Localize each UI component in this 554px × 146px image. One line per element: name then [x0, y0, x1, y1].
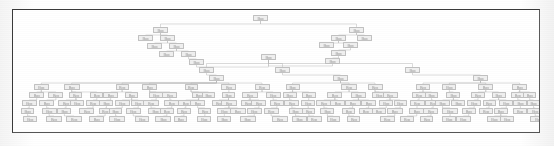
tree-node[interactable]: Box [512, 84, 527, 90]
tree-node[interactable]: Box [90, 92, 103, 98]
tree-node[interactable]: Box [202, 92, 215, 98]
tree-node[interactable]: Box [325, 58, 340, 64]
tree-node[interactable]: Box [319, 42, 334, 48]
tree-node[interactable]: Box [70, 100, 84, 106]
tree-node[interactable]: Box [135, 116, 149, 122]
tree-node[interactable]: Box [272, 116, 288, 122]
tree-node[interactable]: Box [368, 84, 383, 90]
tree-node[interactable]: Box [302, 108, 315, 114]
tree-node[interactable]: Box [169, 43, 184, 49]
tree-node[interactable]: Box [69, 92, 82, 98]
tree-node[interactable]: Box [29, 92, 44, 98]
tree-node[interactable]: Box [221, 84, 236, 90]
tree-node[interactable]: Box [247, 108, 262, 114]
tree-node[interactable]: Box [412, 92, 426, 98]
tree-node[interactable]: Box [34, 84, 49, 90]
tree-node[interactable]: Box [222, 92, 235, 98]
tree-node[interactable]: Box [181, 51, 196, 57]
tree-node[interactable]: Box [286, 84, 300, 90]
tree-node[interactable]: Box [270, 100, 284, 106]
tree-node[interactable]: Box [109, 116, 125, 122]
tree-node[interactable]: Box [320, 108, 334, 114]
tree-node[interactable]: Box [143, 100, 159, 106]
tree-node[interactable]: Box [405, 67, 420, 73]
tree-node[interactable]: Box [155, 116, 171, 122]
tree-node[interactable]: Box [115, 100, 130, 106]
tree-node[interactable]: Box [478, 84, 493, 90]
tree-node[interactable]: Box [48, 92, 63, 98]
tree-node[interactable]: Box [160, 35, 175, 41]
tree-node[interactable]: Box [400, 116, 414, 122]
tree-node[interactable]: Box [66, 116, 82, 122]
tree-node[interactable]: Box [126, 108, 141, 114]
tree-node[interactable]: Box [527, 100, 541, 106]
tree-node[interactable]: Box [435, 100, 450, 106]
tree-node[interactable]: Box [347, 116, 360, 122]
tree-node[interactable]: Box [409, 108, 424, 114]
tree-node[interactable]: Box [357, 35, 372, 41]
tree-node[interactable]: Box [359, 108, 373, 114]
tree-node[interactable]: Box [307, 116, 322, 122]
tree-node[interactable]: Box [343, 42, 358, 48]
tree-node[interactable]: Box [446, 92, 460, 98]
tree-node[interactable]: Box [138, 35, 153, 41]
tree-node[interactable]: Box [442, 116, 456, 122]
tree-node[interactable]: Box [264, 108, 279, 114]
tree-node[interactable]: Box [387, 108, 403, 114]
tree-node[interactable]: Box [523, 92, 536, 98]
tree-node[interactable]: Box [86, 100, 100, 106]
tree-node[interactable]: Box [327, 92, 342, 98]
tree-node[interactable]: Box [162, 92, 177, 98]
tree-node[interactable]: Box [462, 108, 476, 114]
tree-node[interactable]: Box [473, 75, 488, 81]
tree-node[interactable]: Box [46, 116, 62, 122]
tree-node[interactable]: Box [125, 92, 138, 98]
tree-node[interactable]: Box [149, 92, 163, 98]
tree-node[interactable]: Box [240, 116, 256, 122]
tree-node[interactable]: Box [372, 108, 386, 114]
tree-node[interactable]: Box [159, 51, 174, 57]
tree-node[interactable]: Box [471, 92, 485, 98]
tree-node[interactable]: Box [185, 84, 198, 90]
tree-node[interactable]: Box [513, 100, 527, 106]
tree-node[interactable]: Box [99, 100, 113, 106]
tree-node[interactable]: Box [420, 116, 433, 122]
tree-node[interactable]: Box [330, 100, 345, 106]
tree-node[interactable]: Box [442, 84, 456, 90]
tree-node[interactable]: Box [255, 84, 270, 90]
tree-node[interactable]: Box [242, 92, 258, 98]
tree-node[interactable]: Box [109, 108, 122, 114]
tree-node[interactable]: Box [410, 100, 425, 106]
tree-node[interactable]: Box [331, 50, 346, 56]
tree-node[interactable]: Box [333, 75, 348, 81]
tree-node[interactable]: Box [500, 116, 514, 122]
tree-node[interactable]: Box [316, 100, 331, 106]
tree-node[interactable]: Box [467, 100, 481, 106]
tree-node[interactable]: Box [342, 108, 355, 114]
tree-node[interactable]: Box [345, 100, 361, 106]
tree-node[interactable]: Box [190, 100, 205, 106]
tree-node[interactable]: Box [177, 108, 191, 114]
tree-node[interactable]: Box [266, 92, 281, 98]
tree-node[interactable]: Box [456, 116, 471, 122]
tree-node[interactable]: Box [217, 116, 231, 122]
tree-node[interactable]: Box [479, 108, 493, 114]
tree-node[interactable]: Box [42, 108, 57, 114]
tree-node[interactable]: Box [351, 92, 366, 98]
tree-node[interactable]: Box [142, 84, 157, 90]
tree-node[interactable]: Box [261, 54, 276, 60]
tree-node[interactable]: Box [22, 100, 37, 106]
tree-node[interactable]: Box [199, 67, 214, 73]
tree-node[interactable]: Box [189, 59, 204, 65]
tree-node[interactable]: Box [57, 108, 71, 114]
tree-node[interactable]: Box [416, 84, 430, 90]
tree-node[interactable]: Box [494, 108, 508, 114]
tree-node[interactable]: Box [64, 84, 80, 90]
tree-node[interactable]: Box [423, 108, 438, 114]
tree-node[interactable]: Box [383, 92, 398, 98]
tree-node[interactable]: Box [147, 43, 162, 49]
tree-node[interactable]: Box [289, 108, 303, 114]
tree-node[interactable]: Box [379, 100, 393, 106]
tree-node[interactable]: Box [327, 116, 340, 122]
tree-node[interactable]: Box [174, 116, 187, 122]
